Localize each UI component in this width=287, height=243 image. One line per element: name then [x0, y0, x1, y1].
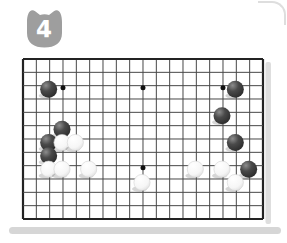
white-stone — [54, 161, 70, 177]
board-side-shadow — [265, 62, 271, 224]
white-stone — [134, 174, 150, 190]
black-stone — [40, 81, 57, 98]
black-stone — [227, 134, 244, 151]
worksheet-card: 4 — [0, 0, 287, 243]
star-point — [220, 85, 225, 90]
black-stone — [213, 107, 230, 124]
star-point — [140, 85, 145, 90]
board-bottom-shadow — [9, 227, 281, 234]
star-point — [60, 85, 65, 90]
star-point — [140, 165, 145, 170]
white-stone — [67, 134, 83, 150]
black-stone — [227, 81, 244, 98]
white-stone — [187, 161, 203, 177]
go-board-content — [23, 59, 271, 224]
black-stone — [240, 161, 257, 178]
white-stone — [81, 161, 97, 177]
white-stone — [214, 161, 230, 177]
white-stone — [227, 174, 243, 190]
go-board — [0, 0, 287, 243]
